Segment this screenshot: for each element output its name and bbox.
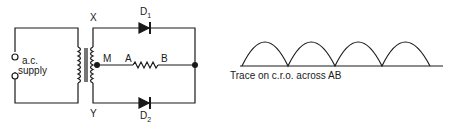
full-wave-rectifier-diagram: a.c. supply X Y M A B D1 D2 Trace on c.r… (0, 0, 454, 129)
wire-y (93, 83, 139, 103)
label-d1: D1 (140, 6, 151, 19)
primary-coil-icon (78, 47, 81, 83)
diode-d1-icon (139, 22, 151, 34)
rectified-waveform (242, 42, 430, 66)
secondary-coil-icon (91, 47, 94, 83)
node-m (94, 62, 100, 68)
label-b: B (161, 53, 168, 64)
node-right (192, 62, 198, 68)
supply-label-line2: supply (18, 65, 47, 76)
cro-trace (240, 42, 443, 66)
wire-x (93, 28, 139, 47)
label-y: Y (90, 108, 97, 119)
trace-caption: Trace on c.r.o. across AB (230, 70, 342, 81)
resistor-icon (133, 62, 158, 68)
label-x: X (90, 12, 97, 23)
diode-d2-icon (139, 97, 151, 109)
supply-terminal-top (12, 54, 18, 60)
label-m: M (103, 53, 111, 64)
label-a: A (125, 53, 132, 64)
label-d2: D2 (140, 110, 151, 123)
